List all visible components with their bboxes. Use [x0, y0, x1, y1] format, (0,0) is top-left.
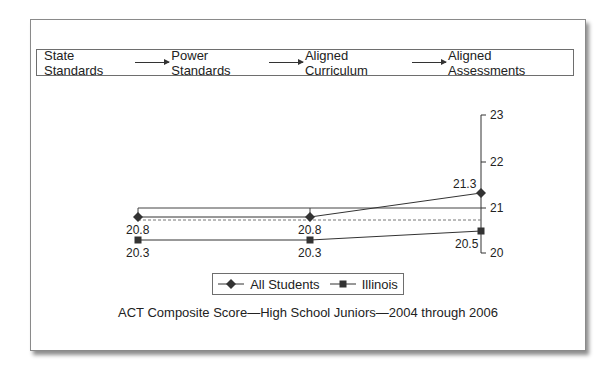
diamond-marker-icon	[133, 212, 143, 222]
square-marker-icon	[307, 237, 314, 244]
chart-caption: ACT Composite Score—High School Juniors—…	[0, 305, 616, 320]
chart-legend: All Students Illinois	[212, 273, 404, 295]
legend-label-illinois: Illinois	[362, 277, 398, 292]
y-tick-22: 22	[490, 155, 504, 169]
legend-item-all-students: All Students	[218, 277, 319, 292]
label-all-2004: 20.8	[126, 223, 150, 237]
y-tick-23: 23	[490, 108, 504, 122]
diamond-line-icon	[218, 279, 244, 289]
label-il-2004: 20.3	[126, 246, 150, 260]
label-all-2005: 20.8	[298, 223, 322, 237]
label-il-2006: 20.5	[455, 237, 479, 251]
square-marker-icon	[478, 228, 485, 235]
y-tick-20: 20	[490, 246, 504, 260]
square-line-icon	[330, 279, 356, 289]
legend-item-illinois: Illinois	[330, 277, 398, 292]
y-tick-21: 21	[490, 201, 504, 215]
diamond-marker-icon	[476, 188, 486, 198]
label-all-2006: 21.3	[453, 177, 477, 191]
square-marker-icon	[135, 237, 142, 244]
legend-label-all-students: All Students	[250, 277, 319, 292]
label-il-2005: 20.3	[298, 246, 322, 260]
